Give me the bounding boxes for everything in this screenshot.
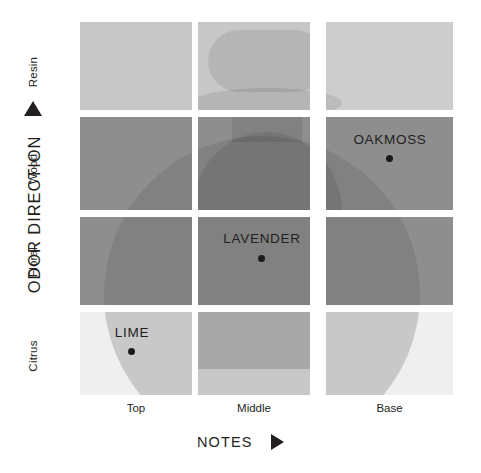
cell-fill bbox=[80, 217, 192, 305]
cell-fill bbox=[198, 217, 310, 305]
cell-fill bbox=[80, 312, 192, 395]
cell-fill bbox=[326, 312, 453, 395]
cell-wood-middle[interactable] bbox=[198, 117, 310, 210]
y-axis-tick-resin: Resin bbox=[27, 17, 39, 127]
cell-fill bbox=[326, 217, 453, 305]
odor-notes-matrix-chart: ODOR DIRECTION Resin Wood Floral Citrus bbox=[0, 0, 481, 473]
cell-fill bbox=[326, 117, 453, 210]
arrow-right-icon bbox=[271, 434, 284, 450]
cell-resin-base[interactable] bbox=[326, 22, 453, 110]
cell-wood-base[interactable] bbox=[326, 117, 453, 210]
cell-fill bbox=[326, 22, 453, 110]
x-axis-tick-base: Base bbox=[326, 402, 453, 414]
x-axis-title-group: NOTES bbox=[0, 432, 481, 450]
cell-floral-middle[interactable] bbox=[198, 217, 310, 305]
cell-fill bbox=[198, 117, 310, 210]
plot-area: LIME LAVENDER OAKMOSS bbox=[80, 22, 453, 395]
cell-citrus-middle[interactable] bbox=[198, 312, 310, 395]
x-axis-title: NOTES bbox=[197, 434, 252, 450]
cell-fill bbox=[198, 312, 310, 395]
cell-resin-top[interactable] bbox=[80, 22, 192, 110]
x-axis-tick-middle: Middle bbox=[198, 402, 310, 414]
y-axis-tick-citrus: Citrus bbox=[27, 301, 39, 411]
x-axis-tick-top: Top bbox=[80, 402, 192, 414]
cell-citrus-base[interactable] bbox=[326, 312, 453, 395]
cell-floral-base[interactable] bbox=[326, 217, 453, 305]
cell-floral-top[interactable] bbox=[80, 217, 192, 305]
cell-fill bbox=[198, 22, 310, 110]
cell-resin-middle[interactable] bbox=[198, 22, 310, 110]
cell-wood-top[interactable] bbox=[80, 117, 192, 210]
cell-citrus-top[interactable] bbox=[80, 312, 192, 395]
cell-fill bbox=[80, 117, 192, 210]
cell-fill bbox=[80, 22, 192, 110]
